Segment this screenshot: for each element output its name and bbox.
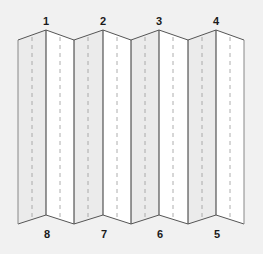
top-labels: 1 2 3 4 [43, 15, 220, 27]
label-2: 2 [100, 15, 106, 27]
label-1: 1 [43, 15, 49, 27]
panel-2-left [74, 30, 103, 224]
panel-3-right [159, 30, 188, 224]
label-7: 7 [101, 228, 107, 240]
label-8: 8 [44, 228, 50, 240]
label-3: 3 [156, 15, 162, 27]
accordion-fold-diagram: 1 2 3 4 8 7 6 5 [0, 0, 263, 254]
label-5: 5 [214, 228, 220, 240]
label-4: 4 [213, 15, 220, 27]
label-6: 6 [157, 228, 163, 240]
bottom-labels: 8 7 6 5 [44, 228, 220, 240]
